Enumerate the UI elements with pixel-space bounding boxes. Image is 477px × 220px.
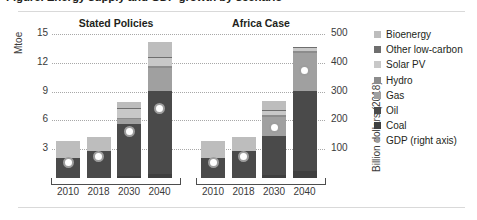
legend-swatch-icon <box>374 46 381 53</box>
gdp-marker[interactable] <box>124 126 135 137</box>
legend-label: Solar PV <box>386 59 425 70</box>
legend-label: Bioenergy <box>386 29 431 40</box>
legend-label: Hydro <box>386 75 413 86</box>
stacked-bar[interactable] <box>117 34 141 178</box>
y-axis-label-left: Mtoe <box>13 32 24 54</box>
figure-title: Figure. Energy supply and GDP growth by … <box>6 0 426 7</box>
top-divider <box>18 11 465 12</box>
bar-segment[interactable] <box>148 57 172 58</box>
gdp-marker[interactable] <box>208 157 219 168</box>
bar-segment[interactable] <box>293 91 317 171</box>
bar-segment[interactable] <box>87 137 111 150</box>
y-tick-label-left: 12 <box>24 56 48 67</box>
bar-segment[interactable] <box>262 101 286 110</box>
x-tick-label: 2010 <box>53 186 83 197</box>
x-tick-label: 2040 <box>290 186 320 197</box>
gdp-marker[interactable] <box>269 122 280 133</box>
y-tick-label-right: 100 <box>331 142 357 153</box>
bar-segment[interactable] <box>56 141 80 159</box>
bar-segment[interactable] <box>117 118 141 119</box>
legend-item[interactable]: Hydro <box>374 73 474 88</box>
chart-legend: BioenergyOther low-carbonSolar PVHydroGa… <box>374 27 474 149</box>
bar-segment[interactable] <box>148 66 172 68</box>
legend-label: GDP (right axis) <box>386 135 457 146</box>
legend-item[interactable]: Coal <box>374 118 474 133</box>
x-tick-label: 2018 <box>84 186 114 197</box>
legend-swatch-icon <box>374 31 381 38</box>
legend-swatch-icon <box>374 77 381 84</box>
y-tick-label-left: 3 <box>24 142 48 153</box>
y-tick-label-left: 6 <box>24 113 48 124</box>
bar-segment[interactable] <box>232 137 256 150</box>
stacked-bar[interactable] <box>262 34 286 178</box>
legend-label: Gas <box>386 90 404 101</box>
bottom-divider <box>18 207 465 208</box>
y-tick-label-left: 9 <box>24 85 48 96</box>
legend-item[interactable]: GDP (right axis) <box>374 133 474 148</box>
bar-segment[interactable] <box>117 102 141 109</box>
gdp-marker[interactable] <box>63 157 74 168</box>
bar-segment[interactable] <box>262 115 286 116</box>
bar-segment[interactable] <box>293 171 317 178</box>
stacked-bar[interactable] <box>293 34 317 178</box>
legend-dot-icon <box>375 138 380 143</box>
plot-area <box>52 34 325 178</box>
legend-label: Oil <box>386 105 398 116</box>
y-tick-label-right: 200 <box>331 113 357 124</box>
legend-item[interactable]: Solar PV <box>374 57 474 72</box>
x-tick-label: 2018 <box>229 186 259 197</box>
x-axis-bracket <box>51 178 181 185</box>
legend-label: Coal <box>386 120 407 131</box>
bar-segment[interactable] <box>262 111 286 115</box>
legend-item[interactable]: Other low-carbon <box>374 42 474 57</box>
bar-segment[interactable] <box>262 110 286 111</box>
legend-swatch-icon <box>374 107 381 114</box>
x-tick-label: 2030 <box>114 186 144 197</box>
y-tick-label-left: 15 <box>24 27 48 38</box>
y-tick-label-right: 300 <box>331 85 357 96</box>
legend-swatch-icon <box>374 61 381 68</box>
bar-segment[interactable] <box>293 51 317 53</box>
bar-segment[interactable] <box>262 136 286 175</box>
legend-item[interactable]: Oil <box>374 103 474 118</box>
bar-segment[interactable] <box>201 141 225 159</box>
legend-swatch-icon <box>374 92 381 99</box>
bar-segment[interactable] <box>148 68 172 91</box>
y-tick-label-right: 400 <box>331 56 357 67</box>
bar-segment[interactable] <box>148 42 172 57</box>
panel-title: Africa Case <box>197 17 325 29</box>
bar-segment[interactable] <box>293 48 317 51</box>
x-tick-label: 2010 <box>198 186 228 197</box>
x-axis-bracket <box>196 178 326 185</box>
x-tick-label: 2030 <box>259 186 289 197</box>
x-tick-label: 2040 <box>145 186 175 197</box>
bar-segment[interactable] <box>117 119 141 124</box>
panel-title: Stated Policies <box>52 17 180 29</box>
y-tick-label-right: 500 <box>331 27 357 38</box>
bar-segment[interactable] <box>293 47 317 48</box>
figure-container: Figure. Energy supply and GDP growth by … <box>0 0 477 220</box>
legend-item[interactable]: Gas <box>374 88 474 103</box>
bar-segment[interactable] <box>117 109 141 118</box>
legend-label: Other low-carbon <box>386 44 463 55</box>
bar-segment[interactable] <box>148 58 172 66</box>
legend-swatch-icon <box>374 122 381 129</box>
legend-item[interactable]: Bioenergy <box>374 27 474 42</box>
